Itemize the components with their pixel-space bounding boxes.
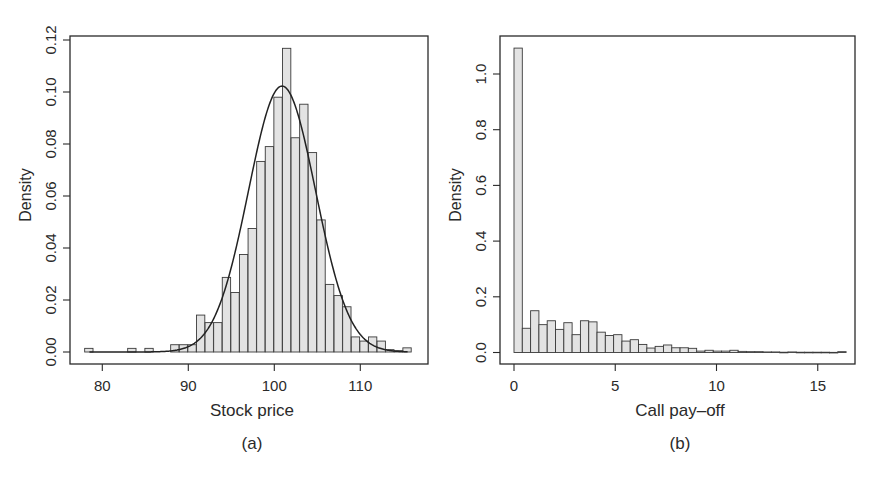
histogram-bar [655,346,663,352]
y-axis-label: Density [17,168,34,221]
y-tick-label: 1.0 [472,64,489,85]
y-tick-label: 0.08 [42,129,59,158]
x-tick-label: 100 [262,377,287,394]
x-tick-label: 90 [180,377,197,394]
histogram-bar [780,352,788,353]
y-tick-label: 0.12 [42,25,59,54]
histogram-bar [805,352,813,353]
histogram-bar [813,352,821,353]
histogram-bar [214,323,222,352]
y-tick-label: 0.04 [42,233,59,262]
histogram-bar [291,138,299,352]
histogram-bar [614,335,622,353]
histogram-bar [713,351,721,352]
histogram-bar [722,351,730,352]
histogram-bar [531,311,539,353]
histogram-bar [589,322,597,353]
histogram-bar [730,350,738,352]
x-tick-label: 0 [510,377,518,394]
xlabel-b: Call pay–off [635,401,724,421]
histogram-bar [647,348,655,352]
histogram-bar [317,220,325,352]
histogram-bar [522,328,530,352]
histogram-bar [222,277,230,352]
histogram-bar [334,296,342,352]
histogram-bar [580,321,588,353]
histogram-bar [343,307,351,352]
x-axis: 051015 [510,364,826,394]
plot-frame [500,36,855,364]
x-tick-label: 110 [348,377,372,394]
figure: 0.000.020.040.060.080.100.12Density80901… [0,0,885,478]
histogram-bar [630,340,638,353]
histogram-bar [771,352,779,353]
caption-a: (a) [242,434,263,454]
y-tick-label: 0.10 [42,77,59,106]
x-tick-label: 80 [94,377,111,394]
histogram-bars [514,48,846,353]
histogram-bar [325,284,333,352]
panel-b-call-payoff-histogram: 0.00.20.40.60.81.0Density051015 [447,36,855,394]
y-tick-label: 0.02 [42,285,59,314]
x-axis: 8090100110 [94,364,372,394]
histogram-bar [308,153,316,352]
caption-b: (b) [670,434,691,454]
panel-a-stock-price-histogram: 0.000.020.040.060.080.100.12Density80901… [17,25,428,394]
histogram-bars [85,48,412,352]
y-tick-label: 0.00 [42,337,59,366]
histogram-bar [196,315,204,352]
y-tick-label: 0.6 [472,175,489,196]
y-tick-label: 0.06 [42,181,59,210]
histogram-bar [755,352,763,353]
histogram-bar [265,147,273,352]
histogram-bar [274,97,282,352]
histogram-bar [680,348,688,353]
histogram-bar [821,352,829,353]
histogram-bar [639,344,647,352]
y-tick-label: 0.2 [472,286,489,307]
histogram-bar [300,104,308,352]
y-tick-label: 0.8 [472,119,489,140]
histogram-bar [248,229,256,353]
histogram-bar [351,337,359,352]
histogram-bar [572,335,580,353]
histogram-bar [746,352,754,353]
histogram-bar [239,255,247,353]
y-axis-label: Density [447,168,464,221]
xlabel-a: Stock price [210,401,294,421]
x-tick-label: 5 [611,377,619,394]
histogram-bar [597,332,605,352]
y-tick-label: 0.0 [472,342,489,363]
x-tick-label: 15 [809,377,826,394]
histogram-bar [377,341,385,352]
histogram-bar [763,352,771,353]
histogram-bar [738,351,746,352]
y-tick-label: 0.4 [472,231,489,252]
histogram-bar [788,352,796,353]
histogram-bar [514,48,522,352]
histogram-bar [622,341,630,352]
histogram-bar [838,352,846,353]
histogram-bar [796,352,804,353]
histogram-bar [688,348,696,352]
y-axis: 0.000.020.040.060.080.100.12Density [17,25,70,366]
histogram-bar [539,325,547,353]
histogram-bar [564,323,572,353]
histogram-bar [547,321,555,353]
histogram-bar [705,350,713,352]
histogram-bar [829,352,837,353]
histogram-bar [360,341,368,352]
histogram-bar [257,161,265,352]
histogram-bar [672,348,680,353]
x-tick-label: 10 [708,377,725,394]
histogram-bar [231,292,239,352]
histogram-bar [556,329,564,352]
histogram-bar [605,336,613,353]
histogram-bar [663,345,671,353]
histogram-bar [697,351,705,352]
y-axis: 0.00.20.40.60.81.0Density [447,64,500,363]
